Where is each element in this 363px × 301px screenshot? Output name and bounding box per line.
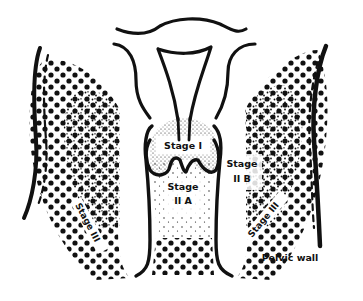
label-pelvic-wall: Pelvic wall [262, 252, 319, 263]
lower-vagina-region [152, 238, 214, 275]
vagina-left-wall [136, 126, 152, 276]
uterus-left-wall [114, 44, 150, 118]
cervical-staging-diagram: Stage I Stage II A Stage II B Stage III … [0, 0, 363, 301]
label-stage-2b-line1: Stage [226, 158, 257, 169]
uterus-fundus-outline [117, 19, 246, 33]
label-stage-2b-line2: II B [233, 173, 251, 184]
label-stage-1: Stage I [164, 140, 202, 151]
label-stage-2a-line1: Stage [167, 181, 198, 192]
uterine-cavity [158, 47, 211, 120]
label-stage-2a-line2: II A [174, 195, 192, 206]
